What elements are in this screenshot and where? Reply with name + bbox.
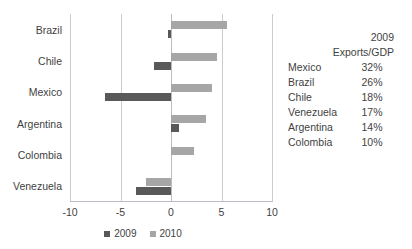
gridline-10 (272, 14, 273, 202)
table-row: Chile18% (286, 90, 412, 105)
table-body: Mexico32%Brazil26%Chile18%Venezuela17%Ar… (286, 60, 412, 150)
category-label-venezuela: Venezuela (13, 179, 62, 193)
gridline--5 (121, 14, 122, 202)
table-cell-value: 18% (350, 90, 394, 105)
bar-venezuela-2009 (136, 187, 171, 195)
category-label-chile: Chile (38, 54, 62, 68)
table-cell-value: 10% (350, 135, 394, 150)
x-tick-label-0: 0 (151, 204, 191, 220)
table-row: Mexico32% (286, 60, 412, 75)
bar-chart: BrazilChileMexicoArgentinaColombiaVenezu… (0, 0, 286, 249)
table-row: Colombia10% (286, 135, 412, 150)
chart-page: BrazilChileMexicoArgentinaColombiaVenezu… (0, 0, 412, 249)
legend-swatch-icon-2010 (150, 231, 156, 237)
category-label-brazil: Brazil (36, 23, 62, 37)
table-cell-value: 14% (350, 120, 394, 135)
plot-area (70, 14, 272, 202)
legend-item-2010: 2010 (150, 228, 182, 240)
table-cell-country: Venezuela (286, 105, 350, 120)
bar-chile-2010 (171, 53, 217, 61)
table-row: Brazil26% (286, 75, 412, 90)
table-cell-country: Mexico (286, 60, 350, 75)
gridline--10 (70, 14, 71, 202)
table-row: Argentina14% (286, 120, 412, 135)
category-label-colombia: Colombia (18, 148, 62, 162)
bar-argentina-2009 (171, 124, 179, 132)
value-axis: -10-50510 (40, 204, 300, 220)
chart-legend: 20092010 (0, 226, 286, 242)
legend-item-2009: 2009 (104, 228, 136, 240)
exports-gdp-table: 2009 Exports/GDP Mexico32%Brazil26%Chile… (286, 30, 412, 150)
bar-argentina-2010 (171, 115, 206, 123)
bar-colombia-2010 (171, 147, 194, 155)
table-cell-country: Brazil (286, 75, 350, 90)
table-cell-country: Argentina (286, 120, 350, 135)
table-cell-value: 17% (350, 105, 394, 120)
table-header-year: 2009 (286, 30, 394, 45)
bar-brazil-2010 (171, 21, 227, 29)
table-header: 2009 Exports/GDP (286, 30, 412, 60)
bar-venezuela-2010 (146, 178, 171, 186)
bar-brazil-2009 (168, 30, 171, 38)
bar-mexico-2010 (171, 84, 212, 92)
bar-chile-2009 (154, 62, 171, 70)
table-cell-value: 32% (350, 60, 394, 75)
table-cell-value: 26% (350, 75, 394, 90)
gridline-5 (222, 14, 223, 202)
bar-mexico-2009 (105, 93, 171, 101)
legend-label: 2010 (160, 228, 182, 240)
table-cell-country: Chile (286, 90, 350, 105)
x-tick-label--5: -5 (101, 204, 141, 220)
table-row: Venezuela17% (286, 105, 412, 120)
table-cell-country: Colombia (286, 135, 350, 150)
x-tick-label-5: 5 (202, 204, 242, 220)
x-tick-label-10: 10 (252, 204, 292, 220)
table-header-metric: Exports/GDP (286, 45, 394, 60)
category-axis: BrazilChileMexicoArgentinaColombiaVenezu… (0, 14, 68, 202)
x-tick-label--10: -10 (50, 204, 90, 220)
category-label-mexico: Mexico (29, 85, 62, 99)
value-axis-line (70, 201, 273, 202)
legend-swatch-icon-2009 (104, 231, 110, 237)
gridline-0 (171, 14, 172, 202)
legend-label: 2009 (114, 228, 136, 240)
category-label-argentina: Argentina (17, 117, 62, 131)
